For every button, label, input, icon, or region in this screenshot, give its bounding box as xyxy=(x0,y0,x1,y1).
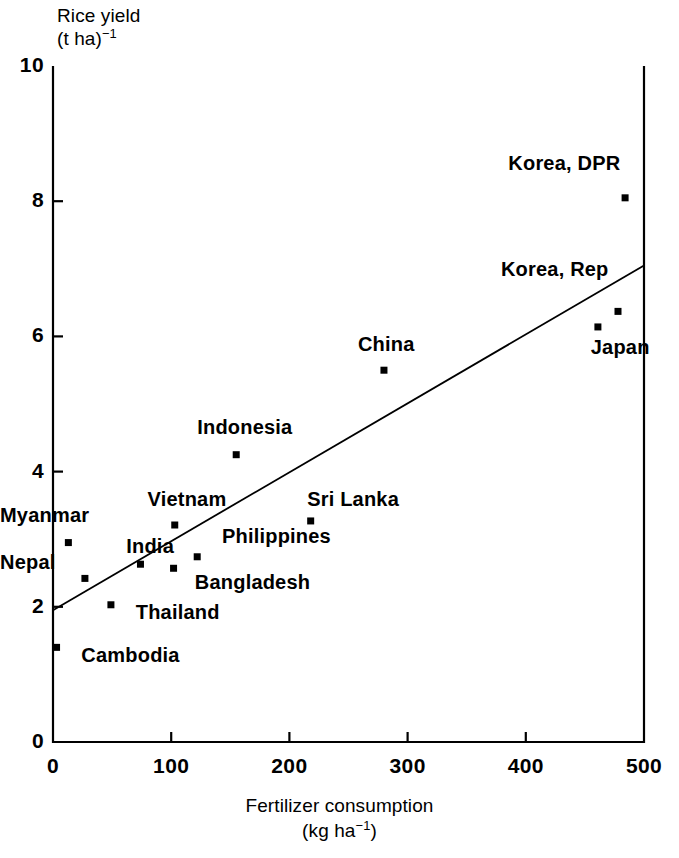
y-tick-label-0: 0 xyxy=(4,729,44,753)
plot-canvas xyxy=(0,0,679,858)
data-point-marker[interactable] xyxy=(307,517,314,524)
data-point-marker[interactable] xyxy=(170,565,177,572)
data-point-label: India xyxy=(126,535,174,558)
x-axis-unit-exponent: −1 xyxy=(356,818,371,833)
data-point-label: Cambodia xyxy=(81,644,179,667)
data-point-marker[interactable] xyxy=(81,575,88,582)
regression-line xyxy=(53,265,644,610)
data-point-label: Japan xyxy=(591,336,650,359)
x-axis-unit-tail: ) xyxy=(370,820,376,841)
data-point-label: Nepal xyxy=(0,551,53,574)
data-point-marker[interactable] xyxy=(614,308,621,315)
data-point-marker[interactable] xyxy=(622,194,629,201)
x-tick-label-200: 200 xyxy=(254,754,324,778)
rice-yield-scatter-figure: Rice yield (t ha)−1 0246810 010020030040… xyxy=(0,0,679,858)
data-point-marker[interactable] xyxy=(171,522,178,529)
x-tick-label-500: 500 xyxy=(609,754,679,778)
x-tick-label-400: 400 xyxy=(491,754,561,778)
data-point-label: Korea, Rep xyxy=(0,258,609,281)
data-point-label: Indonesia xyxy=(197,416,292,439)
y-tick-label-4: 4 xyxy=(4,459,44,483)
y-tick-label-8: 8 xyxy=(4,188,44,212)
data-point-marker[interactable] xyxy=(65,539,72,546)
regression-line-path xyxy=(53,265,644,610)
x-axis-label-line2: (kg ha−1) xyxy=(302,820,377,841)
data-point-label: Korea, DPR xyxy=(0,152,620,175)
y-tick-label-2: 2 xyxy=(4,594,44,618)
y-tick-label-10: 10 xyxy=(4,53,44,77)
data-point-marker[interactable] xyxy=(137,561,144,568)
data-point-marker[interactable] xyxy=(107,601,114,608)
data-point-label: Myanmar xyxy=(0,504,53,527)
data-point-marker[interactable] xyxy=(233,451,240,458)
x-axis-label: Fertilizer consumption (kg ha−1) xyxy=(0,793,679,843)
data-point-label: China xyxy=(358,333,415,356)
data-point-label: Bangladesh xyxy=(195,571,310,594)
x-tick-label-100: 100 xyxy=(136,754,206,778)
x-axis-unit-base: (kg ha xyxy=(302,820,355,841)
x-tick-label-300: 300 xyxy=(373,754,443,778)
data-point-marker[interactable] xyxy=(53,644,60,651)
data-point-label: Philippines xyxy=(222,525,331,548)
x-tick-label-0: 0 xyxy=(18,754,88,778)
data-point-marker[interactable] xyxy=(594,323,601,330)
x-axis-label-line1: Fertilizer consumption xyxy=(245,795,433,816)
y-tick-label-6: 6 xyxy=(4,323,44,347)
data-point-marker[interactable] xyxy=(194,553,201,560)
data-point-marker[interactable] xyxy=(380,367,387,374)
data-point-label: Thailand xyxy=(136,601,220,624)
data-point-label: Sri Lanka xyxy=(307,488,399,511)
data-point-label: Vietnam xyxy=(148,488,227,511)
